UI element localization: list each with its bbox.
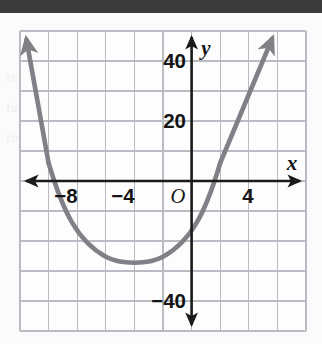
x-axis-label: x [286,151,298,175]
y-tick-label-40: 40 [163,49,186,72]
x-tick-label-neg4: −4 [111,184,135,207]
x-tick-label-neg8: −8 [54,184,77,207]
y-tick-label-20: 20 [163,109,186,132]
figure-page: the graph of the quadratic function cros… [0,0,322,344]
x-tick-label-4: 4 [242,184,254,207]
origin-label: O [171,185,186,207]
parabola-graph: 40 20 −40 −8 −4 4 O x y [0,0,322,344]
y-tick-label-neg40: −40 [151,289,186,312]
